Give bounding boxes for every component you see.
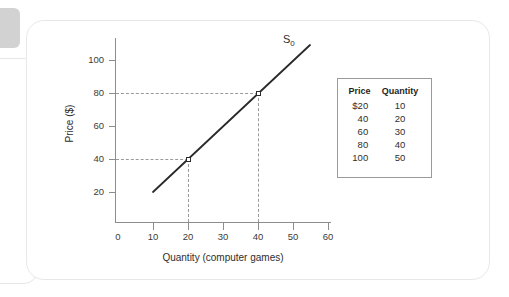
table-header-row: Price Quantity — [344, 86, 425, 99]
table-row: 80 40 — [344, 138, 425, 151]
supply-curve-chart: 100 80 60 40 20 0 10 20 30 40 50 60 S0 — [0, 0, 509, 297]
curve-label-s0: S0 — [283, 33, 295, 48]
cell-quantity: 10 — [375, 99, 425, 112]
cell-price: $20 — [344, 99, 375, 112]
cell-quantity: 40 — [375, 138, 425, 151]
table-body: $20 10 40 20 60 30 80 40 100 50 — [344, 99, 425, 164]
cell-price: 100 — [344, 151, 375, 164]
table-row: 40 20 — [344, 112, 425, 125]
data-point-marker-20-40 — [186, 157, 191, 162]
table-head: Price Quantity — [344, 86, 425, 99]
table-row: 100 50 — [344, 151, 425, 164]
cell-price: 80 — [344, 138, 375, 151]
cell-price: 60 — [344, 125, 375, 138]
y-axis-title: Price ($) — [64, 84, 75, 164]
cell-price: 40 — [344, 112, 375, 125]
cell-quantity: 30 — [375, 125, 425, 138]
figure-screenshot: 100 80 60 40 20 0 10 20 30 40 50 60 S0 — [0, 0, 509, 297]
curve-label-subscript: 0 — [290, 39, 294, 48]
price-quantity-table: Price Quantity $20 10 40 20 60 30 — [337, 78, 432, 178]
table-header-price: Price — [344, 86, 375, 99]
table-row: $20 10 — [344, 99, 425, 112]
table-header-quantity: Quantity — [375, 86, 425, 99]
cell-quantity: 20 — [375, 112, 425, 125]
cell-quantity: 50 — [375, 151, 425, 164]
x-axis-title: Quantity (computer games) — [115, 252, 331, 263]
table-row: 60 30 — [344, 125, 425, 138]
table-element: Price Quantity $20 10 40 20 60 30 — [344, 86, 425, 164]
data-point-marker-40-80 — [256, 91, 261, 96]
